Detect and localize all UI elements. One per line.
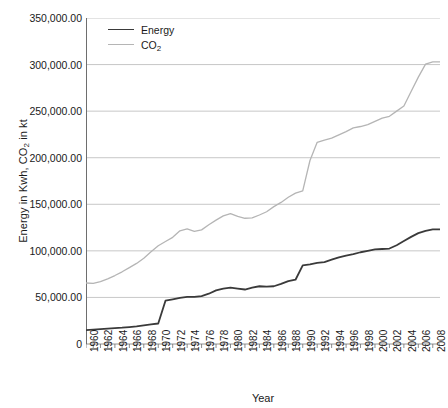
x-tick-label: 1982 [249,330,259,352]
x-tick-label: 2004 [408,330,418,352]
x-tick-label: 1980 [234,330,244,352]
y-tick-label: 50,000.00 [8,292,82,302]
x-tick-label: 1970 [162,330,172,352]
x-axis-title: Year [86,392,440,404]
y-tick-label: 150,000.00 [8,199,82,209]
x-tick-label: 1972 [177,330,187,352]
x-tick-label: 2006 [422,330,432,352]
plot-svg [86,18,440,350]
series-line-co2 [86,62,440,284]
y-tick-label: 100,000.00 [8,246,82,256]
x-tick-label: 1998 [365,330,375,352]
x-tick-label: 1994 [336,330,346,352]
line-chart: Energy in Kwh, CO2 in kt 050,000.00100,0… [0,0,448,408]
legend: EnergyCO2 [108,22,174,52]
x-tick-label: 2008 [437,330,447,352]
x-tick-label: 2002 [393,330,403,352]
x-tick-label: 1964 [119,330,129,352]
y-tick-label: 200,000.00 [8,153,82,163]
x-tick-label: 1992 [321,330,331,352]
legend-label-co2: CO2 [141,39,161,51]
legend-item-co2: CO2 [108,37,174,52]
x-tick-label: 1984 [263,330,273,352]
legend-swatch-energy [108,29,134,30]
y-axis-tick-labels: 050,000.00100,000.00150,000.00200,000.00… [0,0,82,408]
y-tick-label: 250,000.00 [8,106,82,116]
x-tick-label: 1988 [292,330,302,352]
x-tick-label: 1990 [307,330,317,352]
x-tick-label: 1974 [191,330,201,352]
x-tick-label: 1976 [206,330,216,352]
y-tick-label: 0 [8,339,82,349]
legend-label-energy: Energy [141,24,174,36]
x-tick-label: 1966 [133,330,143,352]
x-tick-label: 1960 [90,330,100,352]
x-tick-label: 1996 [350,330,360,352]
series-line-energy [86,229,440,330]
x-tick-label: 1978 [220,330,230,352]
x-tick-label: 1968 [148,330,158,352]
legend-swatch-co2 [108,44,134,45]
x-tick-label: 2000 [379,330,389,352]
x-tick-label: 1986 [278,330,288,352]
y-tick-label: 300,000.00 [8,60,82,70]
plot-area [86,18,440,344]
legend-label-subscript: 2 [157,44,161,53]
y-tick-label: 350,000.00 [8,13,82,23]
legend-item-energy: Energy [108,22,174,37]
x-tick-label: 1962 [104,330,114,352]
